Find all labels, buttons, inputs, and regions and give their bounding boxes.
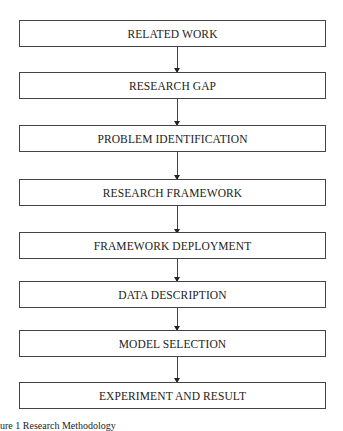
step-label: DATA DESCRIPTION [118, 289, 226, 301]
step-label: RESEARCH GAP [129, 80, 216, 92]
step-research-framework: RESEARCH FRAMEWORK [19, 179, 326, 206]
arrow-down-icon [177, 357, 178, 382]
step-model-selection: MODEL SELECTION [19, 330, 326, 357]
step-experiment-and-result: EXPERIMENT AND RESULT [19, 382, 326, 409]
arrow-down-icon [177, 259, 178, 281]
arrow-down-icon [177, 308, 178, 330]
step-label: EXPERIMENT AND RESULT [99, 390, 246, 402]
step-data-description: DATA DESCRIPTION [19, 281, 326, 308]
step-problem-identification: PROBLEM IDENTIFICATION [19, 125, 326, 152]
step-research-gap: RESEARCH GAP [19, 72, 326, 99]
step-framework-deployment: FRAMEWORK DEPLOYMENT [19, 232, 326, 259]
step-label: MODEL SELECTION [119, 338, 226, 350]
step-related-work: RELATED WORK [19, 20, 326, 47]
figure-caption: ure 1 Research Methodology [0, 420, 116, 431]
step-label: RELATED WORK [127, 28, 217, 40]
arrow-down-icon [177, 206, 178, 233]
arrow-down-icon [177, 152, 178, 179]
step-label: PROBLEM IDENTIFICATION [97, 133, 247, 145]
step-label: RESEARCH FRAMEWORK [103, 187, 243, 199]
arrow-down-icon [177, 99, 178, 125]
arrow-down-icon [177, 47, 178, 72]
step-label: FRAMEWORK DEPLOYMENT [94, 240, 252, 252]
